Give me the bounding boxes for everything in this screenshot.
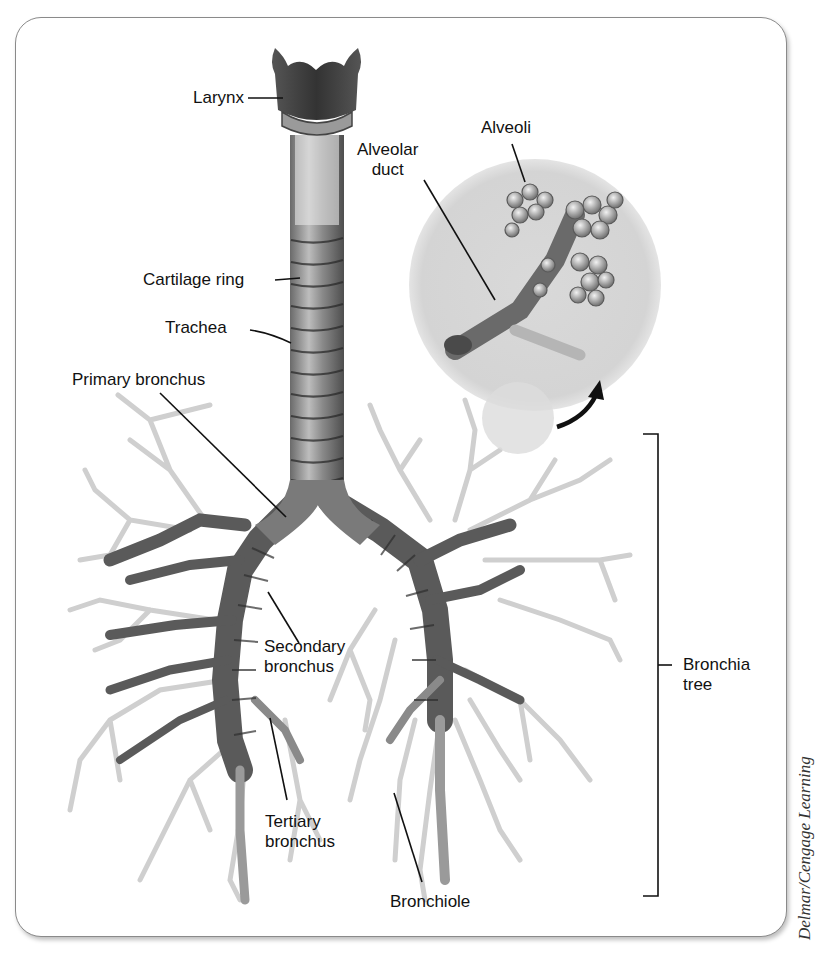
label-cartilage-ring: Cartilage ring [143, 270, 244, 290]
label-alveolar-line1: Alveolar [357, 140, 418, 160]
label-alveolar-line2: duct [357, 160, 418, 180]
label-alveoli: Alveoli [481, 118, 531, 138]
label-secondary-line1: Secondary [264, 637, 345, 657]
label-tertiary-line2: bronchus [265, 832, 335, 852]
label-larynx: Larynx [193, 88, 244, 108]
image-credit: Delmar/Cengage Learning [795, 756, 815, 940]
label-bronchia-line1: Bronchia [683, 655, 750, 675]
label-bronchia-tree: Bronchia tree [683, 655, 750, 695]
larynx-shape [272, 48, 361, 135]
label-primary-bronchus: Primary bronchus [72, 370, 205, 390]
label-tertiary-bronchus: Tertiary bronchus [265, 812, 335, 852]
label-secondary-line2: bronchus [264, 657, 345, 677]
label-bronchiole: Bronchiole [390, 892, 470, 912]
label-secondary-bronchus: Secondary bronchus [264, 637, 345, 677]
label-tertiary-line1: Tertiary [265, 812, 335, 832]
label-alveolar-duct: Alveolar duct [357, 140, 418, 180]
trachea-shape [255, 135, 380, 545]
label-trachea: Trachea [165, 318, 227, 338]
alveoli-inset [409, 159, 661, 454]
bronchioles-light [70, 395, 630, 900]
label-bronchia-line2: tree [683, 675, 750, 695]
bronchia-tree-bracket [643, 434, 672, 896]
